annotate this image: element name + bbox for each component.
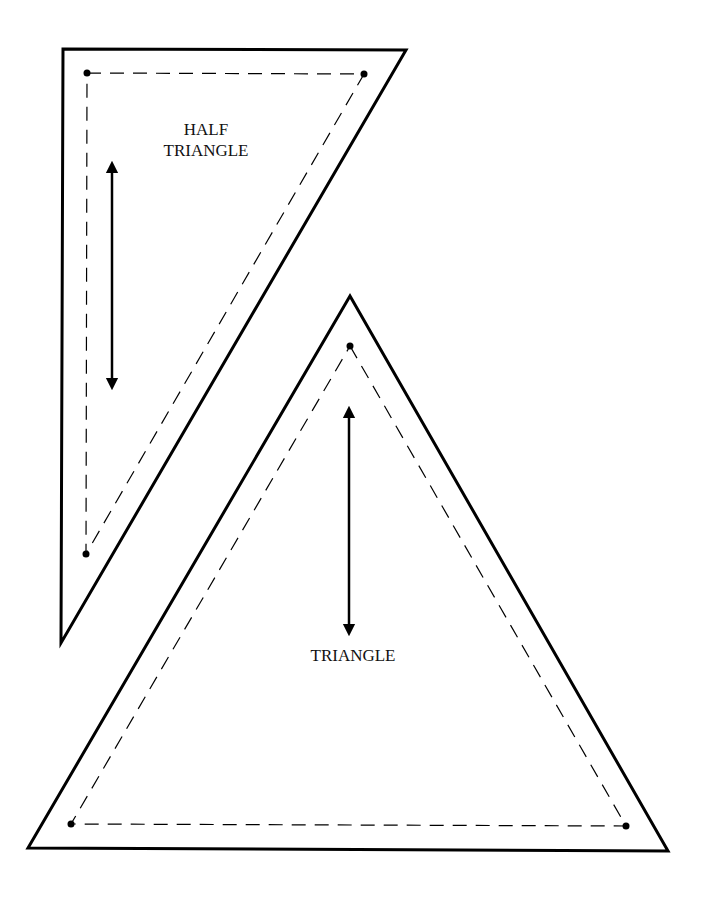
corner-dot	[361, 71, 368, 78]
half-triangle-label-line-1: HALF	[184, 120, 228, 139]
corner-dot	[84, 70, 91, 77]
corner-dot	[623, 823, 630, 830]
corner-dot	[347, 343, 354, 350]
triangle-label: TRIANGLE	[311, 646, 396, 665]
half-triangle-label-line-2: TRIANGLE	[164, 141, 249, 160]
corner-dot	[83, 551, 90, 558]
half-triangle-piece: HALF TRIANGLE	[61, 49, 406, 643]
pattern-sheet: HALF TRIANGLE TRIANGLE	[0, 0, 703, 902]
corner-dot	[68, 821, 75, 828]
triangle-piece: TRIANGLE	[28, 296, 668, 851]
